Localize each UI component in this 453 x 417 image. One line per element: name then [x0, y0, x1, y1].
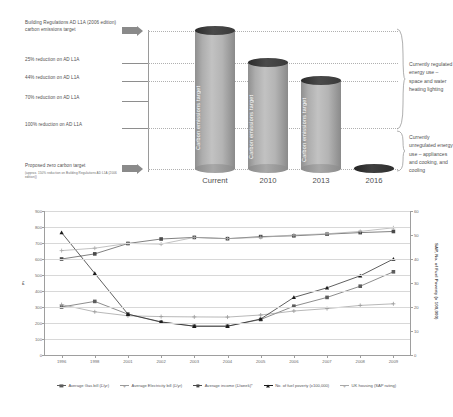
- chart-legend-item[interactable]: +Average Electricity bill (£/yr): [120, 383, 182, 388]
- legend-label: UK housing (SAP rating): [352, 383, 397, 388]
- cylinder-caption-current: Current: [195, 176, 235, 185]
- chart-y-tickmark-right: [410, 235, 413, 236]
- chart-gridline: [45, 243, 410, 244]
- chart-y-tickmark-left: [42, 227, 45, 228]
- chart-data-point: [325, 296, 329, 300]
- chart-data-point: [93, 300, 97, 304]
- legend-swatch: +: [340, 385, 349, 386]
- chart-y-tick-left: 500: [35, 273, 42, 278]
- diagram-label-baseline: Building Regulations AD L1A (2006 editio…: [25, 20, 117, 33]
- legend-swatch: +: [120, 385, 129, 386]
- chart-data-point: [358, 284, 362, 288]
- chart-y-tickmark-left: [42, 275, 45, 276]
- chart-gridline: [45, 227, 410, 228]
- legend-label: Average income (£/week)*: [205, 383, 253, 388]
- refline-baseline: [148, 31, 398, 32]
- chart-legend-item[interactable]: No. of fuel poverty (x100,000): [264, 383, 329, 388]
- chart-y-tickmark-left: [42, 339, 45, 340]
- chart-y-tickmark-left: [42, 243, 45, 244]
- chart-x-tickmark: [327, 355, 328, 358]
- legend-marker-icon: [60, 384, 63, 387]
- chart-data-point: [259, 313, 263, 317]
- cylinder-current: Carbon emissions target: [195, 26, 235, 173]
- cylinder-2016: [354, 164, 394, 173]
- chart-x-tick: 1998: [90, 359, 99, 364]
- chart-x-tick: 2009: [389, 359, 398, 364]
- label-text: Building Regulations AD L1A (2006 editio…: [25, 20, 117, 33]
- chart-x-tick: 2008: [356, 359, 365, 364]
- chart-x-tickmark: [294, 355, 295, 358]
- chart-data-point: [192, 315, 196, 319]
- chart-y-axis-label-right: SAP, No. of Fuel Poverty (x 100,000): [434, 243, 439, 320]
- chart-y-tickmark-right: [410, 355, 413, 356]
- chart-x-tickmark: [62, 355, 63, 358]
- chart-x-tickmark: [228, 355, 229, 358]
- chart-gridline: [45, 275, 410, 276]
- chart-y-tickmark-right: [410, 307, 413, 308]
- chart-y-tick-left: 400: [35, 289, 42, 294]
- chart-legend: Average Gas bill (£/yr)+Average Electric…: [0, 383, 453, 388]
- legend-label: Average Electricity bill (£/yr): [132, 383, 183, 388]
- chart-y-tick-right: 60: [414, 209, 419, 214]
- diagram-label-44pct: 44% reduction on AD L1A: [25, 75, 121, 82]
- chart-y-tick-right: 10: [414, 329, 419, 334]
- cylinder-2013: Carbon emissions target: [301, 76, 341, 173]
- chart-data-point: [392, 270, 396, 274]
- chart-legend-item[interactable]: Average Gas bill (£/yr): [57, 383, 109, 388]
- chart-y-tick-right: 0: [414, 353, 416, 358]
- chart-x-tick: 1996: [57, 359, 66, 364]
- chart-y-tickmark-right: [410, 211, 413, 212]
- chart-legend-item[interactable]: Average income (£/week)*: [193, 383, 252, 388]
- chart-x-tickmark: [261, 355, 262, 358]
- chart-y-tick-left: 200: [35, 321, 42, 326]
- chart-series-line: [62, 233, 394, 327]
- chart-x-tickmark: [161, 355, 162, 358]
- chart-series-line: [62, 231, 394, 259]
- label-text: 70% reduction on AD L1A: [25, 95, 121, 102]
- chart-x-tickmark: [393, 355, 394, 358]
- diagram-label-70pct: 70% reduction on AD L1A: [25, 95, 121, 102]
- label-subtext: (approx. 150% reduction on Building Regu…: [25, 171, 125, 179]
- chart-gridline: [45, 339, 410, 340]
- chart-x-tick: 2006: [289, 359, 298, 364]
- chart-y-tick-left: 600: [35, 257, 42, 262]
- chart-legend-item[interactable]: +UK housing (SAP rating): [340, 383, 396, 388]
- chart-y-tickmark-left: [42, 323, 45, 324]
- carbon-target-diagram: Building Regulations AD L1A (2006 editio…: [0, 0, 453, 205]
- chart-y-tick-right: 50: [414, 233, 419, 238]
- chart-x-tick: 2005: [256, 359, 265, 364]
- chart-x-tickmark: [360, 355, 361, 358]
- chart-x-tick: 2004: [223, 359, 232, 364]
- chart-series-layer: [45, 211, 410, 355]
- chart-y-tick-left: 800: [35, 225, 42, 230]
- legend-marker-icon: [196, 384, 199, 387]
- chart-data-point: [60, 249, 64, 253]
- chart-data-point: [159, 237, 163, 241]
- chart-data-point: [226, 315, 230, 319]
- chart-data-point: [59, 231, 63, 235]
- chart-y-tick-right: 20: [414, 305, 419, 310]
- note-regulated-energy: Currently regulated energy use – space a…: [409, 60, 453, 93]
- chart-gridline: [45, 211, 410, 212]
- diagram-label-zero-carbon: Proposed zero carbon target (approx. 150…: [25, 163, 125, 179]
- leader-line-100: [122, 128, 148, 129]
- leader-line-44: [122, 81, 148, 82]
- label-text: 44% reduction on AD L1A: [25, 75, 121, 82]
- chart-y-tick-right: 30: [414, 281, 419, 286]
- leader-line-70: [122, 101, 148, 102]
- chart-data-point: [292, 309, 296, 313]
- chart-y-tick-left: 900: [35, 209, 42, 214]
- cylinder-label: Carbon emissions target: [195, 68, 235, 168]
- legend-swatch: [57, 385, 66, 386]
- chart-y-tick-left: 700: [35, 241, 42, 246]
- chart-y-tickmark-right: [410, 259, 413, 260]
- chart-x-tickmark: [194, 355, 195, 358]
- chart-y-tick-right: 40: [414, 257, 419, 262]
- chart-x-tick: 2007: [322, 359, 331, 364]
- label-text: 25% reduction on AD L1A: [25, 57, 121, 64]
- chart-gridline: [45, 259, 410, 260]
- diagram-vertical-axis: [148, 30, 149, 172]
- legend-label: Average Gas bill (£/yr): [68, 383, 109, 388]
- chart-y-tick-left: 100: [35, 337, 42, 342]
- chart-gridline: [45, 323, 410, 324]
